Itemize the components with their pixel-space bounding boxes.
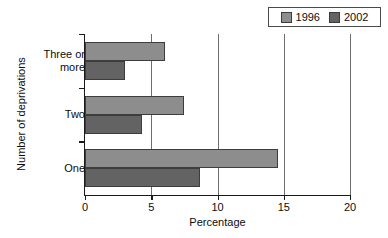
y-tick-1	[79, 88, 85, 89]
y-category-label-three-or-more: Three ormore	[43, 48, 85, 73]
x-tick-label-20: 20	[344, 201, 356, 213]
x-tick-5	[151, 195, 152, 200]
y-category-label-line: Three or	[43, 48, 85, 61]
bar-1996-one	[85, 149, 278, 168]
legend-entry-1996: 1996	[281, 12, 320, 23]
legend-swatch-2002	[329, 12, 340, 23]
gridline-15	[284, 34, 285, 195]
x-axis-title: Percentage	[85, 216, 350, 228]
bar-2002-three-or-more	[85, 61, 125, 80]
x-tick-label-0: 0	[82, 201, 88, 213]
y-axis-title: Number of deprivations	[15, 29, 27, 199]
y-category-label-one: One	[64, 162, 85, 175]
bar-1996-two	[85, 96, 184, 115]
x-tick-15	[284, 195, 285, 200]
bar-2002-two	[85, 115, 142, 134]
x-tick-label-15: 15	[278, 201, 290, 213]
y-category-label-two: Two	[65, 108, 85, 121]
y-tick-0	[79, 141, 85, 142]
legend-label-2002: 2002	[344, 12, 368, 23]
bar-chart: 1996 2002 OneTwoThree ormore05101520 Per…	[0, 0, 388, 238]
bar-1996-three-or-more	[85, 42, 165, 61]
x-tick-0	[85, 195, 86, 200]
y-category-label-line: Two	[65, 108, 85, 121]
gridline-10	[218, 34, 219, 195]
x-tick-20	[350, 195, 351, 200]
x-tick-label-10: 10	[211, 201, 223, 213]
x-tick-label-5: 5	[148, 201, 154, 213]
plot-area	[85, 34, 350, 195]
x-tick-10	[218, 195, 219, 200]
legend-entry-2002: 2002	[329, 12, 368, 23]
y-category-label-line: One	[64, 162, 85, 175]
chart-legend: 1996 2002	[268, 7, 381, 27]
y-tick-2	[79, 34, 85, 35]
bar-2002-one	[85, 168, 200, 187]
y-category-label-line: more	[43, 61, 85, 74]
legend-label-1996: 1996	[296, 12, 320, 23]
gridline-20	[350, 34, 351, 195]
legend-swatch-1996	[281, 12, 292, 23]
